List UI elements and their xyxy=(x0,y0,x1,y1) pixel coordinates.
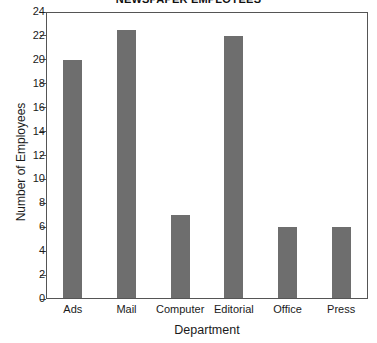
chart-title: NEWSPAPER EMPLOYEES xyxy=(0,0,377,5)
x-axis-title: Department xyxy=(46,323,368,337)
bar-ads xyxy=(63,60,82,298)
y-axis-tick-label: 22 xyxy=(33,30,45,41)
bar-chart: NEWSPAPER EMPLOYEES 02468101214161820222… xyxy=(0,0,377,343)
y-axis-tick-label: 6 xyxy=(39,221,45,232)
y-axis-tick-label: 10 xyxy=(33,173,45,184)
y-axis-tick-label: 12 xyxy=(33,150,45,161)
y-axis-tick-label: 4 xyxy=(39,245,45,256)
bar-editorial xyxy=(224,36,243,298)
y-axis-tick-label: 8 xyxy=(39,197,45,208)
bar-computer xyxy=(171,215,190,298)
plot-area xyxy=(46,12,368,299)
y-axis-tick-label: 18 xyxy=(33,78,45,89)
y-axis-tick-label: 16 xyxy=(33,102,45,113)
x-axis-tick-label: Press xyxy=(308,303,374,315)
y-axis-tick-label: 14 xyxy=(33,126,45,137)
y-axis-tick-label: 2 xyxy=(39,269,45,280)
bar-mail xyxy=(117,30,136,298)
y-axis-tick-label: 24 xyxy=(33,6,45,17)
bar-press xyxy=(332,227,351,298)
y-axis-title: Number of Employees xyxy=(14,82,28,242)
y-axis-tick-label: 20 xyxy=(33,54,45,65)
bar-office xyxy=(278,227,297,298)
